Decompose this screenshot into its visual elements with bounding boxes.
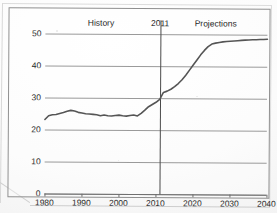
x-tick-2040 (266, 195, 267, 198)
x-tick-2020 (192, 194, 193, 197)
x-tick-2010 (155, 194, 156, 197)
y-tick-label-40: 40 (32, 60, 42, 70)
x-tick-label-2030: 2030 (220, 198, 239, 208)
x-tick-label-2020: 2020 (183, 198, 202, 208)
x-tick-label-2010: 2010 (146, 198, 165, 208)
x-tick-1980 (44, 193, 45, 196)
x-tick-label-1980: 1980 (35, 197, 54, 207)
y-tick-label-10: 10 (31, 156, 41, 166)
chart-frame: 01020304050 1980199020002010202020302040… (7, 7, 270, 199)
x-tick-2000 (118, 194, 119, 197)
x-tick-label-1990: 1990 (72, 198, 91, 208)
plot-area: 01020304050 1980199020002010202020302040… (44, 33, 267, 194)
paper-edge-left (0, 3, 3, 203)
annotation-history: History (88, 18, 115, 28)
scanned-page-background: 01020304050 1980199020002010202020302040… (0, 0, 277, 213)
y-tick-label-20: 20 (31, 124, 41, 134)
x-tick-1990 (81, 194, 82, 197)
paper-edge-top (3, 3, 271, 6)
y-tick-label-30: 30 (32, 92, 42, 102)
caption-fragment (8, 202, 38, 211)
series-1-polyline (45, 38, 267, 121)
y-tick-label-50: 50 (32, 28, 42, 38)
series-line-chart (44, 33, 267, 194)
x-tick-2030 (229, 195, 230, 198)
x-tick-label-2000: 2000 (109, 198, 128, 208)
annotation-2011: 2011 (151, 18, 169, 28)
annotation-projections: Projections (195, 18, 237, 28)
x-tick-label-2040: 2040 (257, 199, 276, 209)
